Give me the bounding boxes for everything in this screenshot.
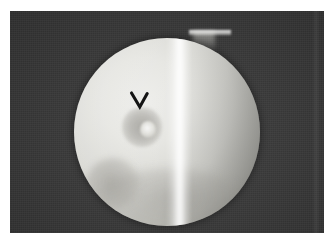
lesion-nidus <box>140 121 156 138</box>
instrument-tip <box>189 30 231 35</box>
field-of-view-shading <box>74 38 260 226</box>
lesion <box>122 107 162 147</box>
circular-field-of-view <box>74 38 260 226</box>
frame-right-light-band <box>312 11 320 233</box>
image-canvas <box>0 0 324 243</box>
bright-vertical-band <box>166 38 192 226</box>
secondary-lesion <box>86 158 140 210</box>
page-margin-left <box>0 0 10 243</box>
lower-field-shadow <box>96 168 246 226</box>
page-margin-bottom <box>0 233 324 243</box>
photographic-frame <box>10 11 324 233</box>
page-margin-top <box>0 0 324 11</box>
